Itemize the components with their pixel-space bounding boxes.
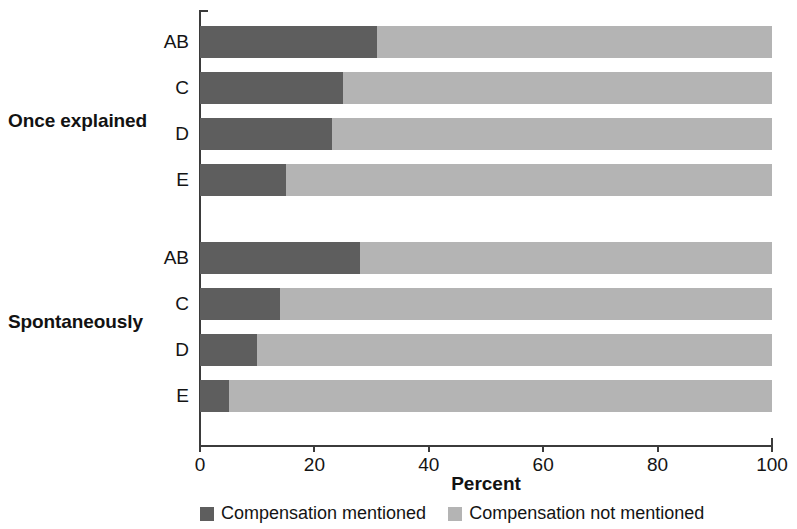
- bar-segment-mentioned: [200, 26, 377, 58]
- bar-segment-not-mentioned: [280, 288, 772, 320]
- bar-segment-mentioned: [200, 72, 343, 104]
- bar-segment-not-mentioned: [360, 242, 772, 274]
- stacked-bar-chart: Once explained Spontaneously ABCDEABCDE …: [0, 0, 797, 529]
- x-tick-mark: [428, 445, 430, 452]
- bar-segment-not-mentioned: [377, 26, 772, 58]
- legend-item[interactable]: Compensation not mentioned: [448, 503, 704, 524]
- group-label-spontaneously: Spontaneously: [8, 311, 183, 333]
- group-label-once-explained: Once explained: [8, 110, 183, 132]
- bar-segment-mentioned: [200, 164, 286, 196]
- bar-segment-not-mentioned: [343, 72, 772, 104]
- bar-category-label: C: [175, 291, 189, 317]
- bar-row: AB: [200, 26, 772, 58]
- x-tick-mark: [771, 445, 773, 452]
- bar-category-label: AB: [164, 29, 189, 55]
- bar-category-label: E: [176, 383, 189, 409]
- bar-row: AB: [200, 242, 772, 274]
- bar-segment-not-mentioned: [257, 334, 772, 366]
- legend-item[interactable]: Compensation mentioned: [200, 503, 426, 524]
- bar-row: E: [200, 380, 772, 412]
- x-axis-line: [199, 445, 773, 447]
- chart-legend: Compensation mentionedCompensation not m…: [200, 503, 797, 524]
- x-tick-mark: [542, 445, 544, 452]
- legend-swatch-icon: [448, 507, 462, 521]
- legend-swatch-icon: [200, 507, 214, 521]
- bar-row: D: [200, 118, 772, 150]
- y-axis-top-cap: [199, 10, 208, 12]
- x-axis-title: Percent: [200, 473, 772, 495]
- bar-category-label: D: [175, 337, 189, 363]
- bar-segment-mentioned: [200, 288, 280, 320]
- bar-segment-not-mentioned: [332, 118, 772, 150]
- bar-segment-mentioned: [200, 242, 360, 274]
- bar-segment-not-mentioned: [229, 380, 772, 412]
- plot-area: ABCDEABCDE 020406080100: [200, 10, 772, 445]
- bar-category-label: C: [175, 75, 189, 101]
- x-tick-mark: [313, 445, 315, 452]
- legend-label: Compensation mentioned: [221, 503, 426, 524]
- bar-segment-mentioned: [200, 380, 229, 412]
- x-tick-mark: [199, 445, 201, 452]
- bar-segment-not-mentioned: [286, 164, 772, 196]
- bar-category-label: E: [176, 167, 189, 193]
- bar-row: D: [200, 334, 772, 366]
- bar-segment-mentioned: [200, 334, 257, 366]
- legend-label: Compensation not mentioned: [469, 503, 704, 524]
- bar-category-label: AB: [164, 245, 189, 271]
- bar-category-label: D: [175, 121, 189, 147]
- bar-row: C: [200, 72, 772, 104]
- x-tick-mark: [657, 445, 659, 452]
- bar-row: C: [200, 288, 772, 320]
- bar-segment-mentioned: [200, 118, 332, 150]
- bar-row: E: [200, 164, 772, 196]
